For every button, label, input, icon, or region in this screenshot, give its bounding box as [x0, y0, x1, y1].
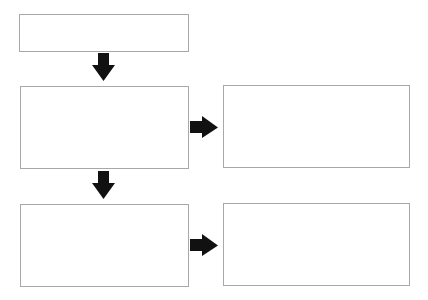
- flow-box-4: [20, 204, 189, 287]
- arrow-right-icon: [190, 234, 219, 257]
- flow-box-3: [223, 85, 410, 168]
- arrow-down-icon: [92, 53, 116, 82]
- arrow-down-icon: [92, 171, 116, 200]
- flow-box-1: [19, 14, 189, 52]
- flow-box-5: [223, 203, 410, 286]
- flow-box-2: [20, 86, 189, 169]
- arrow-right-icon: [190, 116, 219, 139]
